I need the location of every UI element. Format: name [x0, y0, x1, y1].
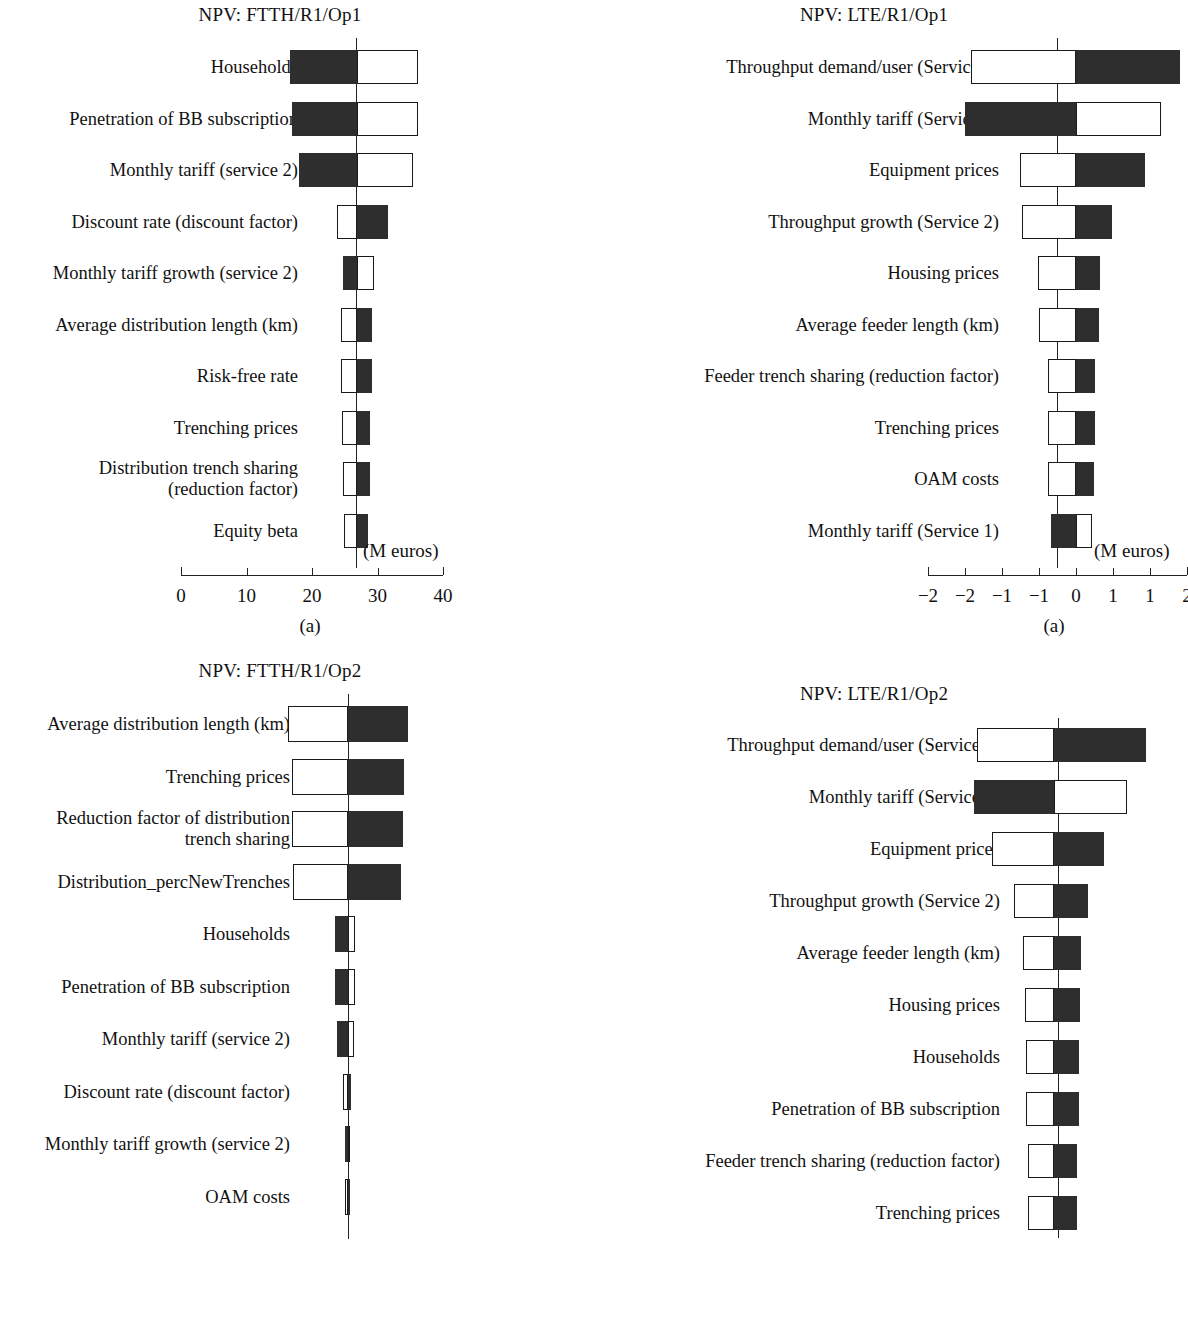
bar-row-label: Monthly tariff growth (service 2) [0, 1134, 298, 1155]
bar-segment-high [1054, 1196, 1077, 1230]
bar-segment-high [357, 153, 413, 187]
bar-row: Households [0, 916, 594, 952]
bar-segment-low [974, 780, 1053, 814]
bar-segment-low [337, 1021, 348, 1057]
axis-tick-label: 30 [368, 585, 387, 607]
axis-tick [928, 567, 929, 575]
bar-rows: Throughput demand/user (Service 2)Monthl… [594, 718, 1188, 1230]
bar-segment-low [292, 759, 348, 795]
bar-row: Monthly tariff (service 2) [0, 1021, 594, 1057]
axis-tick [1150, 568, 1151, 575]
bar-segment-low [1014, 884, 1054, 918]
panel-caption: (a) [230, 615, 390, 637]
bar-segment-low [1048, 359, 1076, 393]
bar-row: Average distribution length (km) [0, 706, 594, 742]
plot-area: HouseholdsPenetration of BB subscription… [0, 38, 594, 568]
bar-row: Distribution_percNewTrenches [0, 864, 594, 900]
bar-row-label: Trenching prices [0, 766, 298, 787]
bar-row: Monthly tariff growth (service 2) [0, 1126, 594, 1162]
axis-tick [181, 567, 182, 575]
axis-tick [1076, 568, 1077, 575]
axis-tick [1002, 568, 1003, 575]
bar-segment-low [965, 102, 1076, 136]
plot-area: Throughput demand/user (Service 2)Monthl… [594, 38, 1188, 568]
bar-row-label: Risk-free rate [0, 366, 306, 387]
bar-row-label: Discount rate (discount factor) [0, 211, 306, 232]
bar-segment-low [1025, 988, 1054, 1022]
bar-row-label: Equipment prices [599, 160, 1007, 181]
plot-area: Throughput demand/user (Service 2)Monthl… [594, 718, 1188, 1238]
bar-segment-high [348, 706, 408, 742]
axis-tick-label: 1 [1145, 585, 1155, 607]
axis-tick-label: 10 [237, 585, 256, 607]
bar-segment-high [1054, 936, 1081, 970]
axis-tick-label: −2 [918, 585, 938, 607]
bar-segment-high [357, 308, 372, 342]
bar-row: Housing prices [594, 256, 1188, 290]
chart-title: NPV: LTE/R1/Op1 [594, 4, 1154, 26]
axis-tick [443, 567, 444, 575]
bar-segment-low [292, 811, 348, 847]
bar-segment-low [1051, 514, 1076, 548]
bar-segment-low [341, 308, 357, 342]
bar-row: Monthly tariff (service 2) [0, 153, 594, 187]
bar-segment-low [342, 411, 357, 445]
bar-row-label: Monthly tariff (service 2) [0, 1029, 298, 1050]
x-axis: −2−2−1−10112 [928, 575, 1187, 615]
bar-segment-high [1076, 411, 1095, 445]
axis-tick [247, 568, 248, 575]
bar-segment-high [1076, 153, 1145, 187]
bar-row-label: Trenching prices [600, 1203, 1008, 1224]
bar-segment-low [341, 359, 357, 393]
bar-segment-low [299, 153, 357, 187]
bar-row-label: Average feeder length (km) [599, 314, 1007, 335]
bar-row-label: Households [600, 1047, 1008, 1068]
bar-segment-low [343, 256, 357, 290]
bar-rows: Throughput demand/user (Service 2)Monthl… [594, 38, 1188, 558]
bar-row-label: Households [0, 924, 298, 945]
bar-row-label: Penetration of BB subscription [0, 108, 306, 129]
bar-segment-high [1054, 728, 1146, 762]
bar-row: Housing prices [594, 988, 1188, 1022]
bar-row-label: Discount rate (discount factor) [0, 1081, 298, 1102]
axis-tick [1039, 568, 1040, 575]
bar-segment-high [1076, 102, 1161, 136]
bar-segment-low [343, 462, 357, 496]
bar-segment-low [290, 50, 357, 84]
bar-segment-high [357, 102, 418, 136]
bar-segment-low [1026, 1040, 1054, 1074]
chart-panel-lte-r1-op1: NPV: LTE/R1/Op1 Throughput demand/user (… [594, 0, 1188, 650]
bar-row-label: OAM costs [0, 1186, 298, 1207]
bar-row-label: Average distribution length (km) [0, 714, 298, 735]
bar-row-label: Penetration of BB subscription [600, 1099, 1008, 1120]
bar-rows: HouseholdsPenetration of BB subscription… [0, 38, 594, 558]
axis-tick-label: −1 [992, 585, 1012, 607]
axis-tick [1113, 568, 1114, 575]
bar-row: Monthly tariff (Service 2) [594, 102, 1188, 136]
bar-segment-high [1054, 1092, 1079, 1126]
bar-row-label: Monthly tariff (Service 2) [600, 787, 1008, 808]
bar-rows: Average distribution length (km)Trenchin… [0, 694, 594, 1229]
bar-row: Feeder trench sharing (reduction factor) [594, 1144, 1188, 1178]
bar-segment-low [977, 728, 1054, 762]
axis-unit-label: (M euros) [1094, 540, 1169, 562]
bar-segment-low [1028, 1196, 1054, 1230]
bar-segment-low [288, 706, 348, 742]
bar-row: Average distribution length (km) [0, 308, 594, 342]
chart-title: NPV: FTTH/R1/Op2 [0, 660, 560, 682]
bar-segment-high [348, 1021, 354, 1057]
bar-row: OAM costs [594, 462, 1188, 496]
bar-segment-high [1076, 359, 1095, 393]
bar-row: Monthly tariff growth (service 2) [0, 256, 594, 290]
bar-row: OAM costs [0, 1179, 594, 1215]
bar-row-label: Average distribution length (km) [0, 314, 306, 335]
axis-line [928, 575, 1187, 576]
axis-tick-label: 40 [434, 585, 453, 607]
axis-tick [965, 568, 966, 575]
bar-row: Equipment prices [594, 153, 1188, 187]
bar-row: Throughput growth (Service 2) [594, 884, 1188, 918]
bar-row: Trenching prices [594, 1196, 1188, 1230]
bar-segment-low [335, 969, 348, 1005]
bar-segment-high [1076, 50, 1180, 84]
bar-segment-low [1028, 1144, 1054, 1178]
